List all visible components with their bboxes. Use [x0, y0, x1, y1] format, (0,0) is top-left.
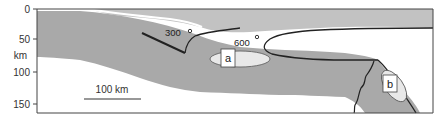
degree-symbol-300: [188, 29, 191, 32]
zone-a-label: a: [225, 52, 232, 64]
degree-symbol-600: [255, 35, 258, 38]
zone-a-ellipse: [210, 51, 270, 67]
scale-bar-label: 100 km: [96, 84, 129, 95]
tick-label-100: 100: [13, 67, 30, 78]
isotherm-600-label: 600: [234, 37, 250, 48]
tick-label-0: 0: [24, 4, 30, 15]
isotherm-300-label: 300: [165, 27, 181, 38]
zone-b-label: b: [387, 78, 393, 90]
subduction-cross-section: a b 300 600 0 50 km 100 150 100 km: [0, 0, 447, 123]
axis-unit-label: km: [14, 50, 27, 61]
tick-label-150: 150: [13, 99, 30, 110]
tick-label-50: 50: [19, 34, 31, 45]
